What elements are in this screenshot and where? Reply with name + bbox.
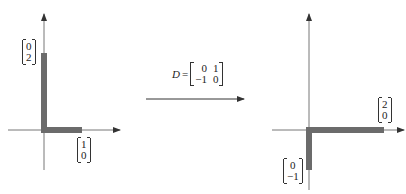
equals-sign: = [182,68,188,80]
transform-equation: D = 0 1 −1 0 [172,62,223,86]
vector-entry: 0 [382,110,388,121]
left-l-shape [41,53,82,133]
matrix-entry: 0 [213,74,219,85]
vector-e1-label: 1 0 [77,138,91,162]
vector-image-e1-label: 2 0 [378,98,392,122]
transform-matrix: 0 1 −1 0 [190,62,223,86]
diagram-canvas [0,0,406,194]
vector-e2-label: 0 2 [22,40,36,64]
vector-image-e2-label: 0 −1 [283,159,303,183]
vector-entry: 2 [26,52,32,63]
vector-entry: 0 [81,150,87,161]
left-axes [8,14,120,170]
vector-entry: −1 [287,171,299,182]
matrix-symbol: D [172,68,180,80]
matrix-entry: −1 [195,74,207,85]
right-l-shape [306,127,384,170]
